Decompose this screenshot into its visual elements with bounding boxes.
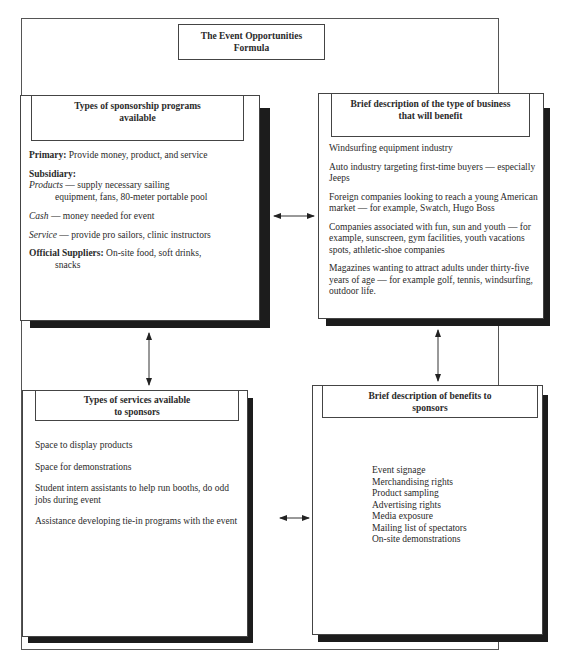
connector-arrows [0, 0, 575, 670]
